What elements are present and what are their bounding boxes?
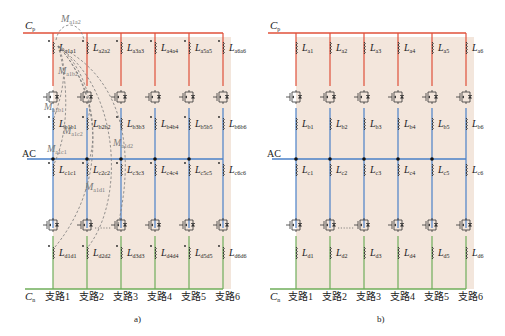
mutual-label-3-sub: a1c2: [71, 131, 82, 137]
inductor-label-a6: La6a6: [228, 42, 246, 54]
bus-label-cn: Cn: [25, 290, 35, 303]
bus-label-cp-sub: p: [32, 26, 35, 32]
inductor-label-a6-sub: a6a6: [235, 48, 246, 54]
branch-label: 支路6: [458, 290, 483, 302]
junction-dot-icon: [362, 157, 366, 161]
inductor-label-b4-sub: b4: [410, 124, 416, 130]
panel-background: [296, 37, 474, 289]
junction-dot-icon: [51, 157, 55, 161]
polarity-dot-icon: [116, 40, 118, 42]
branch-label: 支路3: [356, 290, 381, 302]
bus-label-ac: AC: [267, 148, 281, 159]
polarity-dot-icon: [48, 116, 50, 118]
inductor-label-c2-sub: c2: [342, 170, 348, 176]
branch-label: 支路4: [147, 290, 172, 302]
polarity-dot-icon: [184, 245, 186, 247]
inductor-label-d5-sub: d5d5: [201, 253, 213, 259]
junction-dot-icon: [85, 157, 89, 161]
polarity-dot-icon: [48, 40, 50, 42]
inductor-label-b3-sub: b3: [376, 124, 382, 130]
polarity-dot-icon: [184, 162, 186, 164]
inductor-label-b3-sub: b3b3: [133, 124, 145, 130]
inductor-label-b6: Lb6: [471, 118, 484, 130]
inductor-label-a1-sub: a1: [308, 48, 314, 54]
bus-label-cp: Cp: [25, 19, 35, 32]
junction-dot-icon: [294, 157, 298, 161]
polarity-dot-icon: [48, 245, 50, 247]
lower-switch: [43, 218, 59, 232]
inductor-label-c4-sub: c4c4: [167, 170, 178, 176]
polarity-dot-icon: [184, 116, 186, 118]
mutual-label-2-sub: a1b1: [52, 107, 64, 113]
inductor-label-a2-sub: a2: [342, 48, 348, 54]
inductor-label-d6: Ld6d6: [228, 247, 247, 259]
inductor-label-b2-sub: b2: [342, 124, 348, 130]
inductor-label-d1-sub: d1: [308, 253, 314, 259]
junction-dot-icon: [119, 157, 123, 161]
branch-label: 支路5: [424, 290, 449, 302]
inductor-label-b5-sub: b5b5: [201, 124, 213, 130]
bus-label-ac-main: AC: [22, 148, 36, 159]
polarity-dot-icon: [48, 162, 50, 164]
inductor-label-b2-sub: b2b2: [99, 124, 111, 130]
inductor-label-a4-sub: a4a4: [167, 48, 178, 54]
branch-label: 支路4: [390, 290, 415, 302]
inductor-label-c1-sub: c1c1: [65, 170, 76, 176]
inductor-label-b5-sub: b5: [444, 124, 450, 130]
polarity-dot-icon: [150, 40, 152, 42]
inductor-label-a5-sub: a5: [444, 48, 450, 54]
junction-dot-icon: [396, 157, 400, 161]
polarity-dot-icon: [82, 162, 84, 164]
branch-label: 支路5: [181, 290, 206, 302]
polarity-dot-icon: [218, 245, 220, 247]
inductor-label-d3-sub: d3: [376, 253, 382, 259]
branch-label: 支路1: [45, 290, 70, 302]
inductor-label-a6-sub: a6: [478, 48, 484, 54]
panel-b: CpACCnLa1Lb1Lc1Ld1支路1La2Lb2Lc2Ld2支路2La3L…: [267, 19, 484, 324]
panel-a: CpACCnLa1a1Lb1b1Lc1c1Ld1d1支路1La2a2Lb2b2L…: [22, 19, 247, 324]
mutual-label-1-sub: a1b2: [66, 71, 78, 77]
circuit-diagram: CpACCnLa1a1Lb1b1Lc1c1Ld1d1支路1La2a2Lb2b2L…: [0, 0, 505, 336]
polarity-dot-icon: [150, 116, 152, 118]
panel-caption: a): [134, 314, 141, 324]
inductor-label-c6-sub: c6: [478, 170, 484, 176]
polarity-dot-icon: [150, 245, 152, 247]
polarity-dot-icon: [150, 162, 152, 164]
junction-dot-icon: [187, 157, 191, 161]
inductor-label-a3-sub: a3: [376, 48, 382, 54]
polarity-dot-icon: [82, 245, 84, 247]
inductor-label-d3-sub: d3d3: [133, 253, 145, 259]
polarity-dot-icon: [218, 116, 220, 118]
inductor-label-c6-sub: c6c6: [235, 170, 246, 176]
inductor-label-c5-sub: c5: [444, 170, 450, 176]
inductor-label-c5-sub: c5c5: [201, 170, 212, 176]
branch-label: 支路2: [322, 290, 347, 302]
junction-dot-icon: [430, 157, 434, 161]
upper-switch: [286, 90, 302, 104]
inductor-label-d2-sub: d2d2: [99, 253, 111, 259]
inductor-label-b6-sub: b6: [478, 124, 484, 130]
polarity-dot-icon: [184, 40, 186, 42]
inductor-label-a3-sub: a3a3: [133, 48, 144, 54]
bus-label-ac-main: AC: [267, 148, 281, 159]
branch-label: 支路1: [288, 290, 313, 302]
inductor-label-d4-sub: d4d4: [167, 253, 179, 259]
inductor-label-c6: Lc6: [471, 164, 483, 176]
panel-background: [53, 37, 231, 289]
polarity-dot-icon: [116, 116, 118, 118]
mutual-label-5-sub: a1d2: [121, 143, 133, 149]
mutual-label-0: Ma1a2: [60, 13, 81, 25]
inductor-label-d6-sub: d6d6: [235, 253, 247, 259]
polarity-dot-icon: [82, 40, 84, 42]
bus-label-cn-sub: n: [32, 297, 35, 303]
mutual-label-0-sub: a1a2: [69, 19, 80, 25]
inductor-label-a6: La6: [471, 42, 483, 54]
branch-label: 支路2: [79, 290, 104, 302]
inductor-label-d6-sub: d6: [478, 253, 484, 259]
inductor-label-c2-sub: c2c2: [99, 170, 110, 176]
inductor-label-b6: Lb6b6: [228, 118, 247, 130]
bus-label-ac: AC: [22, 148, 36, 159]
inductor-label-d1-sub: d1d1: [65, 253, 77, 259]
inductor-label-d5-sub: d5: [444, 253, 450, 259]
mutual-label-6-sub: a1d1: [93, 187, 105, 193]
